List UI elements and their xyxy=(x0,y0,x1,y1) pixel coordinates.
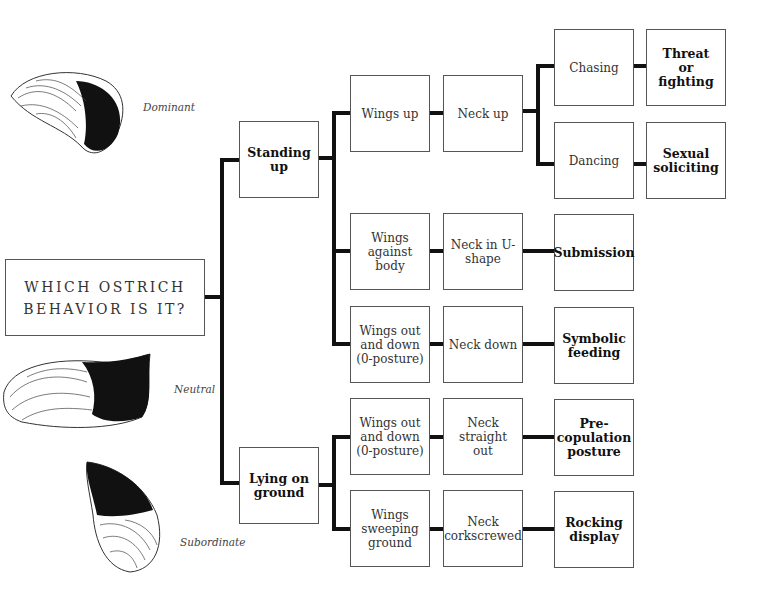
connector xyxy=(522,527,554,531)
node-wings-up: Wings up xyxy=(350,75,430,152)
node-neck-down: Neck down xyxy=(443,306,523,383)
connector xyxy=(429,342,443,346)
title-box: WHICH OSTRICH BEHAVIOR IS IT? xyxy=(5,259,205,336)
connector xyxy=(220,158,224,485)
node-wings-sweeping: Wings sweeping ground xyxy=(350,490,430,567)
node-chasing: Chasing xyxy=(554,29,634,106)
connector xyxy=(536,64,540,166)
connector xyxy=(522,249,554,253)
connector xyxy=(332,527,350,531)
connector xyxy=(332,249,350,253)
node-wings-against-body: Wings against body xyxy=(350,213,430,290)
dominant-feather-icon xyxy=(6,66,126,161)
outcome-rocking-display: Rocking display xyxy=(554,491,634,568)
node-wings-out-down-2: Wings out and down (0-posture) xyxy=(350,398,430,475)
connector xyxy=(220,158,240,162)
connector xyxy=(429,249,443,253)
node-neck-u-shape: Neck in U- shape xyxy=(443,213,523,290)
neutral-feather-icon xyxy=(2,352,157,432)
node-neck-straight: Neck straight out xyxy=(443,398,523,475)
connector xyxy=(633,64,647,68)
dominant-label: Dominant xyxy=(143,101,195,113)
outcome-pre-copulation-posture: Pre- copulation posture xyxy=(554,399,634,476)
outcome-sexual-soliciting: Sexual soliciting xyxy=(646,122,726,199)
node-neck-corkscrewed: Neck corkscrewed xyxy=(443,490,523,567)
outcome-threat-or-fighting: Threat or fighting xyxy=(646,29,726,106)
node-wings-out-down-1: Wings out and down (0-posture) xyxy=(350,306,430,383)
connector xyxy=(429,435,443,439)
connector xyxy=(429,527,443,531)
connector xyxy=(332,111,336,346)
node-neck-up: Neck up xyxy=(443,75,523,152)
node-standing-up: Standing up xyxy=(239,121,319,198)
neutral-label: Neutral xyxy=(174,383,215,395)
connector xyxy=(522,342,554,346)
connector xyxy=(536,162,554,166)
connector xyxy=(633,162,647,166)
outcome-symbolic-feeding: Symbolic feeding xyxy=(554,307,634,384)
connector xyxy=(220,481,240,485)
connector xyxy=(332,435,350,439)
outcome-submission: Submission xyxy=(554,214,634,291)
node-dancing: Dancing xyxy=(554,122,634,199)
connector xyxy=(522,435,554,439)
page-title: WHICH OSTRICH BEHAVIOR IS IT? xyxy=(23,276,187,320)
connector xyxy=(332,342,350,346)
connector xyxy=(332,111,350,115)
connector xyxy=(332,435,336,531)
subordinate-feather-icon xyxy=(85,460,165,575)
node-lying-on-ground: Lying on ground xyxy=(239,447,319,524)
connector xyxy=(536,64,554,68)
subordinate-label: Subordinate xyxy=(180,536,246,548)
connector xyxy=(429,111,443,115)
